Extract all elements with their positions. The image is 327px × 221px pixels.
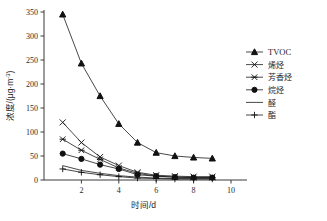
- chart-container: 050100150200250300350246810时间/d浓度/(μg·m-…: [0, 0, 327, 221]
- x-tick-label-4: 4: [117, 186, 121, 195]
- point-2-0: [60, 136, 66, 142]
- legend-label-4[interactable]: 醛: [268, 98, 276, 108]
- x-tick-label-8: 8: [192, 186, 196, 195]
- point-0-1: [78, 60, 84, 66]
- series-line-1: [63, 122, 213, 176]
- point-0-2: [97, 93, 103, 99]
- point-1-1: [78, 140, 84, 146]
- point-5-2: [97, 172, 103, 178]
- point-3-2: [98, 162, 103, 167]
- legend-label-0[interactable]: TVOC: [268, 47, 291, 57]
- legend-label-5[interactable]: 酯: [268, 111, 276, 120]
- point-1-0: [60, 119, 66, 125]
- y-tick-label-200: 200: [26, 80, 38, 89]
- y-tick-label-0: 0: [34, 176, 38, 185]
- legend-marker-2: [251, 74, 257, 80]
- point-0-3: [116, 121, 122, 127]
- y-tick-label-100: 100: [26, 128, 38, 137]
- point-3-1: [79, 156, 84, 161]
- point-0-5: [153, 149, 159, 155]
- x-axis-title: 时间/d: [131, 200, 156, 210]
- series-line-0: [63, 14, 213, 158]
- x-tick-label-10: 10: [227, 186, 235, 195]
- y-tick-label-350: 350: [26, 8, 38, 17]
- legend-label-2[interactable]: 芳香烃: [268, 72, 292, 82]
- svg-text:浓度/(μg·m-3): 浓度/(μg·m-3): [5, 70, 15, 121]
- y-tick-label-50: 50: [30, 152, 38, 161]
- point-5-3: [116, 173, 122, 179]
- x-tick-label-6: 6: [154, 186, 158, 195]
- point-3-0: [60, 151, 65, 156]
- point-0-0: [60, 11, 66, 17]
- legend-marker-3: [252, 87, 257, 92]
- y-tick-label-150: 150: [26, 104, 38, 113]
- legend-label-1[interactable]: 烯烃: [268, 60, 284, 70]
- y-tick-label-300: 300: [26, 32, 38, 41]
- line-chart: 050100150200250300350246810时间/d浓度/(μg·m-…: [0, 0, 327, 221]
- y-tick-label-250: 250: [26, 56, 38, 65]
- point-2-1: [78, 147, 84, 153]
- x-tick-label-2: 2: [79, 186, 83, 195]
- point-3-3: [116, 166, 121, 171]
- legend-marker-5: [251, 112, 257, 118]
- legend-label-3[interactable]: 烷烃: [268, 85, 284, 95]
- point-5-0: [60, 166, 66, 172]
- y-axis-title: 浓度/(μg·m-3): [5, 70, 15, 121]
